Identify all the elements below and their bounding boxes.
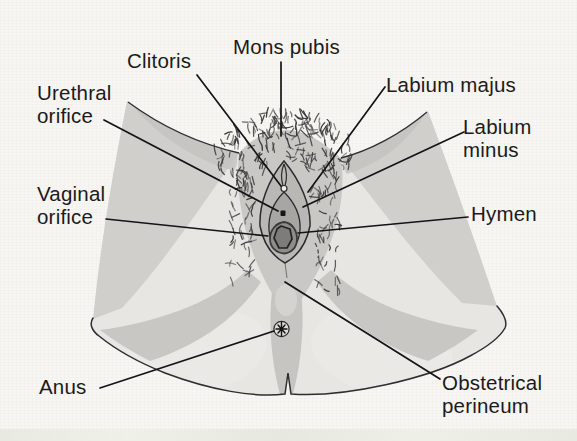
hair-stroke bbox=[243, 161, 244, 168]
hair-stroke bbox=[225, 132, 232, 134]
label-obstetrical-perineum: Obstetrical perineum bbox=[442, 372, 542, 417]
hair-stroke bbox=[290, 112, 291, 117]
clitoris-glans bbox=[281, 186, 287, 192]
hair-stroke bbox=[314, 113, 319, 122]
label-anus: Anus bbox=[39, 376, 87, 399]
perineum-highlight bbox=[275, 284, 297, 316]
hair-stroke bbox=[334, 124, 336, 130]
anus-marker bbox=[274, 321, 289, 336]
hair-stroke bbox=[269, 109, 273, 117]
label-labium-minus: Labium minus bbox=[463, 116, 531, 161]
label-hymen: Hymen bbox=[471, 203, 537, 226]
label-mons-pubis: Mons pubis bbox=[233, 36, 340, 59]
hair-stroke bbox=[309, 113, 310, 121]
anus-center-dot bbox=[280, 328, 283, 331]
hair-stroke bbox=[288, 116, 289, 123]
hair-stroke bbox=[260, 115, 261, 121]
hair-stroke bbox=[238, 140, 239, 149]
hair-stroke bbox=[248, 183, 249, 192]
hymen-rim bbox=[274, 226, 292, 248]
label-urethral-orifice: Urethral orifice bbox=[37, 82, 112, 127]
hair-stroke bbox=[269, 129, 270, 136]
hair-stroke bbox=[245, 218, 246, 224]
hair-stroke bbox=[284, 109, 286, 119]
urethral-orifice-dot bbox=[281, 211, 286, 217]
page-edge-scan-artifact bbox=[0, 429, 577, 441]
hair-stroke bbox=[319, 118, 320, 124]
hair-stroke bbox=[325, 140, 326, 145]
hair-stroke bbox=[227, 134, 229, 139]
label-labium-majus: Labium majus bbox=[386, 74, 516, 97]
label-clitoris: Clitoris bbox=[127, 50, 191, 73]
hair-stroke bbox=[337, 131, 340, 139]
hair-stroke bbox=[348, 145, 349, 152]
label-vaginal-orifice: Vaginal orifice bbox=[37, 183, 105, 228]
hair-stroke bbox=[248, 124, 250, 133]
figure-canvas: Mons pubis Clitoris Urethral orifice Vag… bbox=[0, 0, 577, 441]
